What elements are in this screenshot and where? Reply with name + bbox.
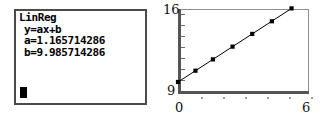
x-axis-tick	[201, 97, 203, 99]
data-point-marker	[289, 6, 293, 10]
linreg-intercept-value: b=9.985714286	[19, 47, 145, 59]
x-axis-tick	[267, 97, 269, 99]
linreg-title: LinReg	[19, 12, 145, 24]
data-point-marker	[250, 32, 254, 36]
data-point-marker	[193, 69, 197, 73]
scatter-plot: 16 9 0 6	[163, 0, 326, 122]
linreg-slope-value: a=1.165714286	[19, 35, 145, 47]
calculator-screenshot: LinReg y=ax+b a=1.165714286 b=9.98571428…	[0, 0, 326, 122]
x-axis-tick	[311, 97, 313, 99]
data-point-marker	[176, 80, 180, 84]
calculator-screen: LinReg y=ax+b a=1.165714286 b=9.98571428…	[14, 9, 147, 105]
y-axis-min-label: 9	[167, 84, 175, 97]
data-point-marker	[230, 45, 234, 49]
linreg-readout: LinReg y=ax+b a=1.165714286 b=9.98571428…	[19, 12, 145, 58]
data-point-marker	[211, 57, 215, 61]
x-axis-min-label: 0	[175, 101, 183, 114]
x-axis-tick	[289, 97, 291, 99]
x-axis-tick	[245, 97, 247, 99]
y-axis-max-label: 16	[163, 3, 180, 16]
x-axis-tick	[223, 97, 225, 99]
plot-data-layer	[178, 9, 309, 94]
cursor-block-icon	[20, 87, 27, 98]
data-point-marker	[270, 19, 274, 23]
x-axis-max-label: 6	[302, 101, 310, 114]
